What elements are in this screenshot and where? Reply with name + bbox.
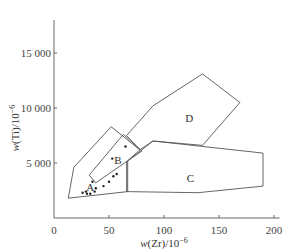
chart-canvas: 0501001502005 00010 00015 000 ABCD w(Zr)… bbox=[0, 0, 292, 252]
region-d-boundary bbox=[127, 74, 240, 150]
data-point bbox=[94, 190, 96, 192]
data-point bbox=[108, 181, 110, 183]
region-a-label: A bbox=[86, 181, 94, 193]
data-point bbox=[91, 181, 93, 183]
data-point bbox=[89, 193, 91, 195]
x-tick-label: 50 bbox=[104, 224, 116, 236]
data-point bbox=[116, 173, 118, 175]
region-c-boundary bbox=[127, 141, 263, 193]
x-axis-title: w(Zr)/10−6 bbox=[140, 236, 188, 250]
region-c-label: C bbox=[187, 172, 194, 184]
discrimination-regions bbox=[68, 74, 263, 198]
y-tick-label: 15 000 bbox=[21, 47, 52, 59]
y-tick-label: 10 000 bbox=[21, 102, 52, 114]
data-point bbox=[81, 192, 83, 194]
data-point bbox=[112, 175, 114, 177]
region-a-boundary bbox=[68, 127, 140, 199]
x-tick-label: 0 bbox=[51, 224, 57, 236]
x-tick-label: 150 bbox=[211, 224, 228, 236]
data-point bbox=[86, 193, 88, 195]
data-point bbox=[111, 157, 113, 159]
region-d-label: D bbox=[185, 112, 193, 124]
data-point bbox=[85, 190, 87, 192]
x-tick-label: 100 bbox=[156, 224, 173, 236]
y-tick-label: 5 000 bbox=[26, 157, 51, 169]
region-b-label: B bbox=[114, 154, 121, 166]
x-tick-label: 200 bbox=[266, 224, 283, 236]
data-point bbox=[95, 187, 97, 189]
data-point bbox=[124, 145, 126, 147]
data-point bbox=[102, 185, 104, 187]
